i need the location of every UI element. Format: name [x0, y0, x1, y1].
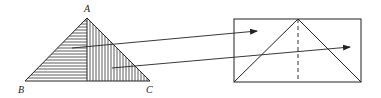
right-half-arrow [112, 47, 350, 68]
rearranged-rectangle [234, 19, 361, 82]
vertex-label-c: C [146, 84, 153, 95]
diagram-canvas: A B C [0, 0, 381, 98]
triangle-abc: A B C [18, 3, 153, 95]
left-half-arrow [72, 31, 257, 48]
vertex-label-b: B [18, 84, 24, 95]
vertex-label-a: A [83, 3, 91, 14]
left-half-horizontal-hatch [20, 21, 90, 78]
